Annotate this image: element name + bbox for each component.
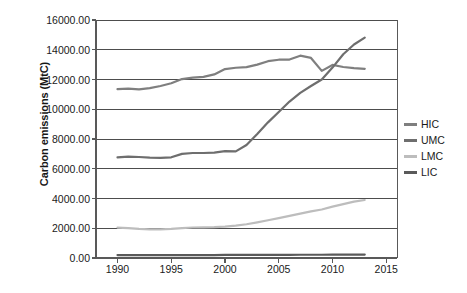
x-tick-label: 2005 <box>257 263 301 275</box>
legend-label: HIC <box>421 119 439 130</box>
legend-swatch-icon <box>404 155 417 158</box>
legend-item[interactable]: LIC <box>404 164 467 180</box>
series-line-lic <box>118 255 365 256</box>
legend-label: LIC <box>421 167 437 178</box>
x-tick-label: 1995 <box>149 263 193 275</box>
legend-item[interactable]: HIC <box>404 116 467 132</box>
legend-swatch-icon <box>404 171 417 174</box>
legend-label: LMC <box>421 151 443 162</box>
legend-label: UMC <box>421 135 445 146</box>
x-axis-tick-labels: 199019952000200520102015 <box>0 263 467 283</box>
plot-area <box>0 0 467 293</box>
chart-legend: HICUMCLMCLIC <box>404 116 467 180</box>
chart-container: Carbon emissions (MtC) 0.002000.004000.0… <box>0 0 467 293</box>
legend-swatch-icon <box>404 139 417 142</box>
legend-swatch-icon <box>404 123 417 126</box>
x-tick-label: 2010 <box>311 263 355 275</box>
legend-item[interactable]: UMC <box>404 132 467 148</box>
x-tick-label: 2000 <box>203 263 247 275</box>
legend-item[interactable]: LMC <box>404 148 467 164</box>
x-tick-label: 2015 <box>364 263 408 275</box>
x-tick-label: 1990 <box>96 263 140 275</box>
